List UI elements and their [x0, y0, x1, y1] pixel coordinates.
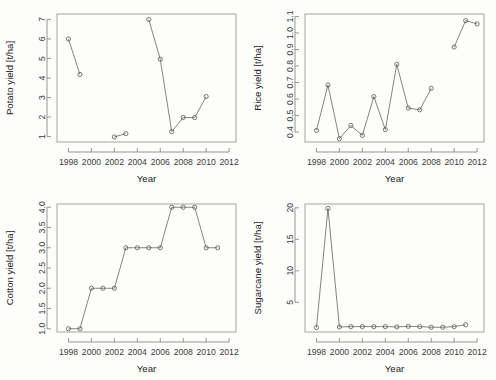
x-tick-label: 2006: [151, 347, 170, 357]
x-tick-label: 2000: [82, 157, 101, 167]
y-tick-label: 3.0: [37, 242, 47, 254]
y-tick-label: 5: [285, 300, 295, 305]
x-tick-label: 2010: [445, 347, 464, 357]
x-axis-title: Year: [137, 363, 157, 374]
data-series-line: [68, 39, 79, 75]
x-tick-label: 2006: [151, 157, 170, 167]
y-tick-label: 4: [37, 75, 47, 80]
x-tick-label: 2006: [399, 347, 418, 357]
sugarcane-yield-chart: 510152019982000200220042006200820102012Y…: [248, 190, 496, 380]
data-series-line: [454, 21, 477, 47]
x-tick-label: 2004: [128, 157, 147, 167]
x-tick-label: 2002: [105, 347, 124, 357]
x-tick-label: 2002: [353, 347, 372, 357]
y-tick-label: 1: [37, 134, 47, 139]
y-tick-label: 10: [285, 266, 295, 276]
x-tick-label: 2004: [376, 157, 395, 167]
x-tick-label: 2008: [422, 347, 441, 357]
rice-yield-chart: 0.40.50.60.70.80.91.01.11998200020022004…: [248, 0, 496, 190]
potato-yield-chart: 123456719982000200220042006200820102012Y…: [0, 0, 248, 190]
x-tick-label: 2000: [330, 157, 349, 167]
x-tick-label: 2004: [376, 347, 395, 357]
x-axis-title: Year: [137, 173, 157, 184]
x-tick-label: 2012: [468, 347, 487, 357]
y-tick-label: 6: [37, 36, 47, 41]
y-tick-label: 0.9: [285, 43, 295, 55]
x-tick-label: 2006: [399, 157, 418, 167]
plot-frame: [57, 204, 236, 332]
x-tick-label: 1998: [59, 157, 78, 167]
y-tick-label: 20: [285, 203, 295, 213]
y-tick-label: 0.4: [285, 126, 295, 138]
x-tick-label: 1998: [307, 347, 326, 357]
x-axis-title: Year: [385, 173, 405, 184]
y-tick-label: 1.5: [37, 302, 47, 314]
x-tick-label: 1998: [307, 157, 326, 167]
x-tick-label: 2000: [330, 347, 349, 357]
x-tick-label: 2000: [82, 347, 101, 357]
data-point-marker: [452, 45, 456, 49]
y-tick-label: 0.5: [285, 109, 295, 121]
data-series-line: [316, 208, 465, 327]
panel-potato-yield: 123456719982000200220042006200820102012Y…: [0, 0, 248, 190]
y-tick-label: 0.8: [285, 60, 295, 72]
x-tick-label: 2008: [174, 157, 193, 167]
data-series-line: [149, 19, 206, 131]
x-tick-label: 2008: [174, 347, 193, 357]
y-tick-label: 2.0: [37, 282, 47, 294]
y-tick-label: 0.6: [285, 93, 295, 105]
data-series-line: [68, 207, 217, 329]
y-axis-title: Potato yield [t/ha]: [4, 41, 15, 115]
plot-frame: [57, 14, 236, 142]
multi-panel-yield-figure: 123456719982000200220042006200820102012Y…: [0, 0, 496, 380]
x-tick-label: 2010: [197, 347, 216, 357]
x-tick-label: 1998: [59, 347, 78, 357]
y-tick-label: 2.5: [37, 262, 47, 274]
x-tick-label: 2012: [468, 157, 487, 167]
x-tick-label: 2002: [105, 157, 124, 167]
cotton-yield-chart: 1.01.52.02.53.03.54.01998200020022004200…: [0, 190, 248, 380]
y-tick-label: 4.0: [37, 201, 47, 213]
y-tick-label: 1.0: [285, 27, 295, 39]
y-tick-label: 7: [37, 17, 47, 22]
data-series-line: [316, 64, 431, 138]
y-axis-title: Rice yield [t/ha]: [252, 45, 263, 111]
x-tick-label: 2004: [128, 347, 147, 357]
y-tick-label: 3.5: [37, 221, 47, 233]
x-tick-label: 2002: [353, 157, 372, 167]
y-axis-title: Sugarcane yield [t/ha]: [252, 222, 263, 315]
panel-rice-yield: 0.40.50.60.70.80.91.01.11998200020022004…: [248, 0, 496, 190]
x-tick-label: 2012: [220, 157, 239, 167]
panel-sugarcane-yield: 510152019982000200220042006200820102012Y…: [248, 190, 496, 380]
y-tick-label: 3: [37, 95, 47, 100]
y-tick-label: 1.0: [37, 323, 47, 335]
y-tick-label: 5: [37, 56, 47, 61]
x-tick-label: 2010: [197, 157, 216, 167]
y-tick-label: 2: [37, 114, 47, 119]
x-tick-label: 2010: [445, 157, 464, 167]
x-axis-title: Year: [385, 363, 405, 374]
y-tick-label: 15: [285, 234, 295, 244]
plot-frame: [305, 204, 484, 332]
y-tick-label: 0.7: [285, 76, 295, 88]
y-tick-label: 1.1: [285, 10, 295, 22]
y-axis-title: Cotton yield [t/ha]: [4, 231, 15, 306]
x-tick-label: 2008: [422, 157, 441, 167]
x-tick-label: 2012: [220, 347, 239, 357]
panel-cotton-yield: 1.01.52.02.53.03.54.01998200020022004200…: [0, 190, 248, 380]
